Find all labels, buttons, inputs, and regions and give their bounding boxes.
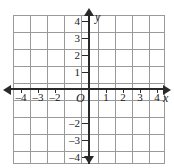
- x-axis-arrow-left-icon: [3, 85, 11, 95]
- x-axis-tick-label: 1: [98, 92, 114, 103]
- y-axis-tick-mark: [82, 55, 88, 56]
- y-axis-tick-mark: [82, 157, 88, 158]
- y-axis-arrow-up-icon: [84, 8, 94, 16]
- x-axis-tick-label: 2: [115, 92, 131, 103]
- x-axis-tick-label: –3: [30, 92, 46, 103]
- y-axis-tick-mark: [82, 38, 88, 39]
- x-axis-tick-label: 3: [132, 92, 148, 103]
- y-axis-tick-label: –4: [64, 152, 80, 163]
- coordinate-grid-figure: 4321–2–3–4–4–3–21234 O y x: [0, 0, 174, 168]
- y-axis-tick-label: –2: [64, 118, 80, 129]
- origin-label: O: [76, 92, 85, 104]
- y-axis-label: y: [95, 11, 100, 23]
- y-axis-tick-label: 3: [64, 33, 80, 44]
- y-axis-tick-mark: [82, 72, 88, 73]
- y-axis-tick-mark: [82, 140, 88, 141]
- y-axis-line: [88, 12, 90, 164]
- x-axis-tick-label: –2: [47, 92, 63, 103]
- y-axis-tick-label: 2: [64, 50, 80, 61]
- y-axis-tick-mark: [82, 123, 88, 124]
- x-axis-label: x: [163, 92, 168, 104]
- x-axis-line: [8, 88, 166, 90]
- y-axis-tick-mark: [82, 21, 88, 22]
- y-axis-tick-label: –3: [64, 135, 80, 146]
- x-axis-tick-label: –4: [13, 92, 29, 103]
- y-axis-tick-label: 1: [64, 67, 80, 78]
- y-axis-tick-label: 4: [64, 16, 80, 27]
